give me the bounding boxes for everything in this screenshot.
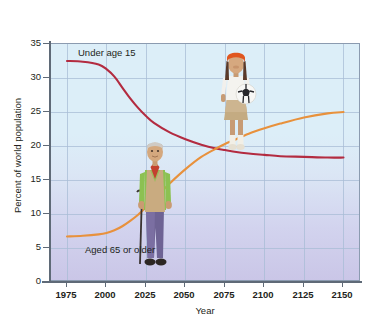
y-tick-label-0: 0 — [19, 276, 41, 286]
y-tick-mark-15 — [43, 179, 50, 180]
x-tick-label-1975: 1975 — [49, 290, 83, 300]
y-tick-mark-0 — [43, 281, 50, 282]
x-tick-mark-2150 — [342, 281, 343, 287]
y-tick-mark-20 — [43, 145, 50, 146]
gridline-vertical-1975 — [67, 44, 68, 280]
x-tick-mark-2025 — [145, 281, 146, 287]
y-tick-mark-5 — [43, 247, 50, 248]
y-tick-mark-30 — [43, 77, 50, 78]
y-tick-mark-25 — [43, 111, 50, 112]
series-label-under-age-15: Under age 15 — [78, 48, 136, 58]
x-tick-label-2100: 2100 — [246, 290, 280, 300]
gridline-horizontal-10 — [51, 214, 359, 215]
gridline-horizontal-30 — [51, 78, 359, 79]
gridline-horizontal-15 — [51, 180, 359, 181]
x-tick-label-2125: 2125 — [286, 290, 320, 300]
x-tick-label-2000: 2000 — [88, 290, 122, 300]
gridline-vertical-2150 — [343, 44, 344, 280]
x-tick-mark-2050 — [184, 281, 185, 287]
x-tick-label-2025: 2025 — [128, 290, 162, 300]
gridline-vertical-2100 — [264, 44, 265, 280]
x-tick-mark-2000 — [105, 281, 106, 287]
gridline-vertical-2050 — [185, 44, 186, 280]
y-tick-mark-35 — [43, 43, 50, 44]
chart-figure: Under age 15 Aged 65 or older 35 30 25 2… — [0, 0, 372, 324]
x-tick-label-2050: 2050 — [167, 290, 201, 300]
x-tick-label-2150: 2150 — [325, 290, 359, 300]
elderly-man-with-cane-image — [133, 136, 177, 279]
x-tick-mark-2125 — [303, 281, 304, 287]
gridline-horizontal-25 — [51, 112, 359, 113]
series-label-aged-65-or-older: Aged 65 or older — [85, 245, 155, 255]
gridline-vertical-2125 — [304, 44, 305, 280]
y-tick-label-35: 35 — [19, 38, 41, 48]
x-axis-line — [42, 281, 362, 283]
curve-under-age-15 — [67, 61, 344, 158]
curve-aged-65-or-older — [67, 112, 344, 236]
x-tick-mark-2075 — [224, 281, 225, 287]
x-tick-mark-1975 — [66, 281, 67, 287]
x-tick-label-2075: 2075 — [207, 290, 241, 300]
x-tick-mark-2100 — [263, 281, 264, 287]
y-tick-mark-10 — [43, 213, 50, 214]
x-axis-title: Year — [50, 305, 360, 316]
girl-with-soccer-ball-image — [214, 50, 258, 154]
gridline-horizontal-20 — [51, 146, 359, 147]
y-axis-title: Percent of world population — [12, 66, 23, 246]
